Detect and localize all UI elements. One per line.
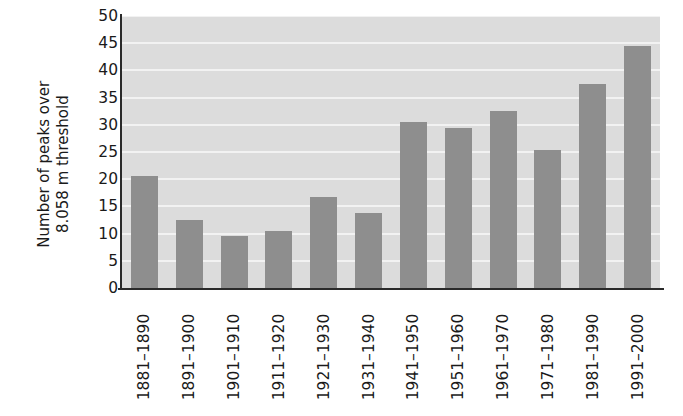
y-tick-label: 5: [108, 252, 118, 270]
x-tick-label: 1941–1950: [404, 297, 422, 416]
x-tick-label: 1911–1920: [270, 297, 288, 416]
y-tick-label: 25: [98, 143, 118, 161]
x-axis-tick-labels: 1881–18901891–19001901–19101911–19201921…: [122, 288, 660, 416]
bar: [221, 236, 248, 288]
bar: [624, 46, 651, 288]
bar: [265, 231, 292, 288]
x-tick-label: 1981–1990: [584, 297, 602, 416]
y-tick-label: 40: [98, 61, 118, 79]
bar: [579, 84, 606, 288]
y-tick-label: 20: [98, 170, 118, 188]
bar: [400, 122, 427, 288]
bar: [131, 176, 158, 288]
y-axis-title: Number of peaks over 8.058 m threshold: [35, 19, 73, 309]
bar: [534, 150, 561, 288]
x-tick-label: 1961–1970: [494, 297, 512, 416]
x-tick-label: 1991–2000: [629, 297, 647, 416]
y-axis-tick-labels: 05101520253035404550: [86, 0, 118, 416]
x-tick-label: 1931–1940: [360, 297, 378, 416]
y-tick-label: 0: [108, 279, 118, 297]
bar: [310, 197, 337, 288]
bar-chart: Number of peaks over 8.058 m threshold 0…: [0, 0, 683, 416]
bar: [355, 213, 382, 288]
bar: [445, 128, 472, 288]
plot-area: [122, 16, 660, 288]
x-tick-label: 1951–1960: [449, 297, 467, 416]
x-tick-label: 1881–1890: [135, 297, 153, 416]
bar: [176, 220, 203, 288]
y-tick-label: 10: [98, 225, 118, 243]
bars: [122, 16, 660, 288]
y-tick-label: 45: [98, 34, 118, 52]
x-tick-label: 1921–1930: [315, 297, 333, 416]
x-tick-label: 1901–1910: [225, 297, 243, 416]
y-tick-label: 30: [98, 116, 118, 134]
x-tick-label: 1891–1900: [180, 297, 198, 416]
y-axis-line: [120, 14, 122, 290]
y-tick-label: 50: [98, 7, 118, 25]
x-tick-label: 1971–1980: [539, 297, 557, 416]
y-tick-label: 15: [98, 197, 118, 215]
bar: [490, 111, 517, 288]
y-tick-label: 35: [98, 89, 118, 107]
